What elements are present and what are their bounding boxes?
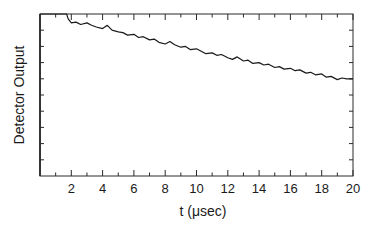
x-axis-tick-labels: 2468101214161820 xyxy=(68,181,361,196)
x-axis-ticks xyxy=(56,14,353,176)
x-tick-label: 10 xyxy=(189,181,203,196)
y-axis-ticks xyxy=(40,30,353,160)
x-tick-label: 12 xyxy=(221,181,235,196)
x-tick-label: 16 xyxy=(283,181,297,196)
x-tick-label: 20 xyxy=(346,181,360,196)
x-axis-title: t (μsec) xyxy=(180,203,227,219)
line-chart: 2468101214161820 t (μsec) Detector Outpu… xyxy=(0,0,377,226)
x-tick-label: 18 xyxy=(314,181,328,196)
x-tick-label: 4 xyxy=(99,181,106,196)
x-tick-label: 14 xyxy=(252,181,266,196)
x-tick-label: 6 xyxy=(130,181,137,196)
plot-frame xyxy=(40,14,353,176)
x-tick-label: 2 xyxy=(68,181,75,196)
detector-output-trace xyxy=(40,14,353,80)
x-tick-label: 8 xyxy=(162,181,169,196)
y-axis-title: Detector Output xyxy=(11,45,27,144)
